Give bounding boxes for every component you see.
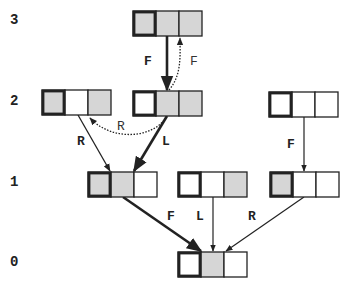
node-cell-empty <box>224 252 247 277</box>
node-cell-empty <box>65 90 88 115</box>
state-node-n2b <box>133 91 202 116</box>
node-cell-empty <box>269 92 292 117</box>
edge-label-n2b-n1a: L <box>162 134 170 149</box>
node-cell-shaded <box>42 90 65 115</box>
node-cell-shaded <box>179 11 202 36</box>
node-cell-shaded <box>270 172 293 197</box>
node-cell-empty <box>292 92 315 117</box>
edge-n1a-n0 <box>123 197 201 251</box>
node-cell-shaded <box>224 172 247 197</box>
level-label-0: 0 <box>10 254 18 270</box>
level-label-1: 1 <box>10 174 18 190</box>
state-node-n2a <box>42 90 111 115</box>
node-cell-shaded <box>201 252 224 277</box>
edge-label-n1c-n0: R <box>248 209 256 224</box>
state-node-n1a <box>88 172 157 197</box>
node-cell-shaded <box>156 11 179 36</box>
node-cell-empty <box>178 252 201 277</box>
state-node-n1b <box>178 172 247 197</box>
node-cell-shaded <box>111 172 134 197</box>
state-node-n3 <box>133 11 202 36</box>
level-label-2: 2 <box>10 93 18 109</box>
node-cell-empty <box>316 172 339 197</box>
edge-n2b-n3-dotted <box>169 38 180 90</box>
edge-label-n2b-n2a: R <box>117 119 125 134</box>
state-node-n0 <box>178 252 247 277</box>
node-cell-shaded <box>133 11 156 36</box>
edge-label-n2c-n1c: F <box>287 137 295 152</box>
node-cell-shaded <box>179 91 202 116</box>
edge-label-n3-n2b: F <box>144 54 152 69</box>
node-cell-empty <box>134 172 157 197</box>
node-cell-shaded <box>88 90 111 115</box>
node-cell-empty <box>315 92 338 117</box>
state-node-n2c <box>269 92 338 117</box>
edge-label-n1b-n0: L <box>196 209 204 224</box>
level-label-3: 3 <box>10 12 18 28</box>
state-node-n1c <box>270 172 339 197</box>
node-cell-empty <box>178 172 201 197</box>
node-cell-empty <box>133 91 156 116</box>
edge-label-n2b-n3: F <box>190 54 198 69</box>
node-cell-empty <box>201 172 224 197</box>
edge-label-n1a-n0: F <box>167 209 175 224</box>
edge-n2b-n2a-dotted <box>90 118 166 135</box>
state-tree-diagram: 3 2 1 0 F F R L R F F L R <box>0 0 346 283</box>
node-cell-shaded <box>156 91 179 116</box>
edge-n1c-n0 <box>226 197 304 251</box>
node-cell-shaded <box>88 172 111 197</box>
node-cell-empty <box>293 172 316 197</box>
edge-label-n2a-n1a: R <box>77 134 85 149</box>
